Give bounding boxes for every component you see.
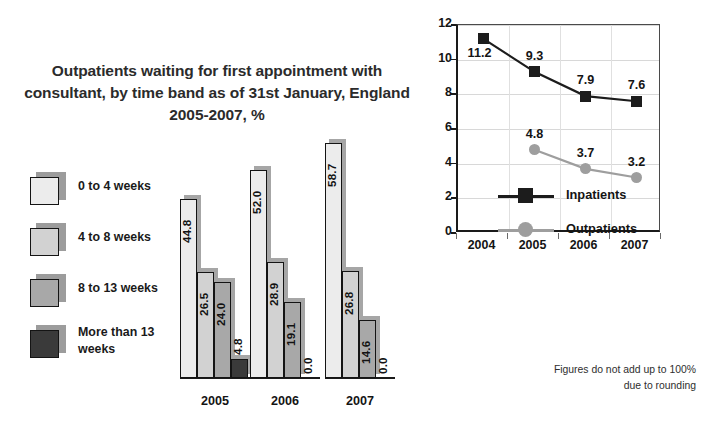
y-axis-label-4: 4 [428,155,452,169]
data-label-inpatients-2006: 7.9 [566,73,606,87]
bar-2006-more-than-13-weeks: 0.0 [301,128,318,378]
bar-value-label: 44.8 [180,201,197,243]
data-label-inpatients-2005: 9.3 [515,49,555,63]
bar-2005-0-to-4-weeks: 44.8 [180,128,197,378]
bar-group-2007: 58.726.814.60.0 [325,128,395,378]
line-chart: 11.29.37.97.64.83.73.2InpatientsOutpatie… [428,14,696,260]
legend-label: Outpatients [566,221,637,236]
data-point-inpatients-2007 [631,96,642,107]
data-label-outpatients-2007: 3.2 [617,155,657,169]
bar-body [231,359,248,378]
square-marker-icon [518,188,533,203]
x-axis-tick [507,233,508,239]
bar-value-label: 58.7 [325,145,342,187]
bar-chart: 200544.826.524.04.8200652.028.919.10.020… [170,140,420,420]
x-axis-label-2004: 2004 [459,238,505,252]
line-chart-plot-area: 11.29.37.97.64.83.73.2InpatientsOutpatie… [456,24,660,232]
bar-2005-8-to-13-weeks: 24.0 [214,128,231,378]
legend-swatch-icon [30,325,68,359]
data-point-inpatients-2006 [580,91,591,102]
data-point-inpatients-2005 [529,66,540,77]
bar-2007-8-to-13-weeks: 14.6 [359,128,376,378]
bar-2006-4-to-8-weeks: 28.9 [267,128,284,378]
bar-value-label: 4.8 [231,313,248,355]
legend-item-4-to-8-weeks: 4 to 8 weeks [30,223,190,274]
data-point-inpatients-2004 [478,33,489,44]
bar-value-label: 28.9 [267,264,284,306]
x-axis-tick [558,233,559,239]
legend-swatch-icon [30,274,68,308]
bar-value-label: 14.6 [359,322,376,364]
bar-2006-8-to-13-weeks: 19.1 [284,128,301,378]
bar-2007-more-than-13-weeks: 0.0 [376,128,393,378]
bar-2007-0-to-4-weeks: 58.7 [325,128,342,378]
bar-group-label-2006: 2006 [250,394,320,408]
data-label-inpatients-2004: 11.2 [460,46,500,60]
footnote-line-1: Figures do not add up to 100% [496,362,696,378]
x-axis-label-2006: 2006 [561,238,607,252]
bar-group-2006: 52.028.919.10.0 [250,128,320,378]
legend-swatch-icon [30,223,68,257]
page-title: Outpatients waiting for first appointmen… [18,60,416,126]
y-axis-label-2: 2 [428,189,452,203]
data-label-inpatients-2007: 7.6 [617,78,657,92]
x-axis-tick [456,233,457,239]
data-label-outpatients-2006: 3.7 [566,146,606,160]
x-axis-label-2005: 2005 [510,238,556,252]
bar-group-label-2007: 2007 [325,394,395,408]
bar-value-label: 0.0 [376,332,393,374]
bar-value-label: 19.1 [284,304,301,346]
bar-value-label: 26.8 [342,273,359,315]
circle-marker-icon [518,222,533,237]
bar-2005-4-to-8-weeks: 26.5 [197,128,214,378]
y-axis-label-10: 10 [428,51,452,65]
bar-value-label: 0.0 [301,332,318,374]
bar-2006-0-to-4-weeks: 52.0 [250,128,267,378]
bar-group-label-2005: 2005 [180,394,250,408]
bar-value-label: 52.0 [250,172,267,214]
bar-value-label: 26.5 [197,274,214,316]
x-axis-tick [609,233,610,239]
bar-2005-more-than-13-weeks: 4.8 [231,128,248,378]
legend-label: Inpatients [566,187,626,202]
data-label-outpatients-2005: 4.8 [515,127,555,141]
footnote: Figures do not add up to 100% due to rou… [496,362,696,393]
x-axis-tick [660,233,661,239]
legend-item-more-than-13-weeks: More than 13 weeks [30,325,190,376]
data-point-outpatients-2007 [631,172,642,183]
legend-swatch-icon [30,172,68,206]
bar-group-2005: 44.826.524.04.8 [180,128,250,378]
bar-chart-legend: 0 to 4 weeks 4 to 8 weeks 8 to 13 weeks … [30,172,190,376]
legend-item-8-to-13-weeks: 8 to 13 weeks [30,274,190,325]
legend-item-0-to-4-weeks: 0 to 4 weeks [30,172,190,223]
bar-2007-4-to-8-weeks: 26.8 [342,128,359,378]
bar-value-label: 24.0 [214,284,231,326]
footnote-line-2: due to rounding [496,378,696,394]
y-axis-label-6: 6 [428,120,452,134]
y-axis-label-8: 8 [428,85,452,99]
y-axis-label-12: 12 [428,16,452,30]
x-axis-label-2007: 2007 [612,238,658,252]
y-axis-label-0: 0 [428,224,452,238]
